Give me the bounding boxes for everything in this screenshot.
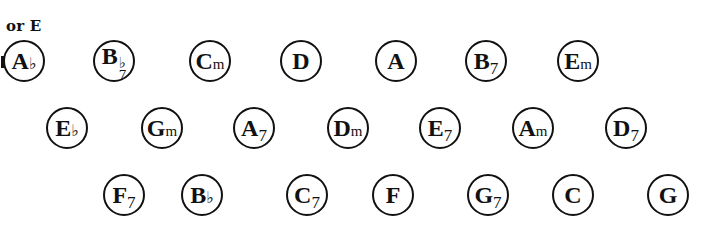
chord-root: A bbox=[387, 49, 404, 73]
chord-quality: ♭ bbox=[71, 123, 79, 139]
chord-root: C bbox=[195, 49, 212, 73]
chord-root: D bbox=[292, 49, 309, 73]
chord-g-7[interactable]: G7 bbox=[467, 174, 509, 216]
chord-root: G bbox=[474, 183, 493, 207]
chord-quality: m bbox=[351, 124, 363, 139]
chord-root: F bbox=[386, 183, 401, 207]
chord-root: E bbox=[564, 49, 580, 73]
chord-quality: 7 bbox=[311, 194, 320, 211]
chord-quality: m bbox=[213, 57, 225, 72]
chord-root: A bbox=[12, 49, 29, 73]
chord-root: D bbox=[613, 116, 630, 140]
chord-g[interactable]: G bbox=[647, 174, 689, 216]
chord-root: B bbox=[102, 44, 118, 68]
chord-quality: 7 bbox=[490, 60, 499, 77]
chord-root: G bbox=[659, 183, 678, 207]
chord-quality: m bbox=[580, 57, 592, 72]
chord-root: D bbox=[333, 116, 350, 140]
chord-g-minor[interactable]: Gm bbox=[141, 107, 183, 149]
chord-e-flat[interactable]: E♭ bbox=[46, 107, 88, 149]
chord-quality-bottom: 7 bbox=[119, 69, 127, 81]
note-or-e: or E bbox=[6, 17, 41, 35]
chord-root: E bbox=[428, 116, 444, 140]
chord-root: B bbox=[190, 183, 206, 207]
chord-quality: m bbox=[166, 124, 178, 139]
chord-quality: 7 bbox=[630, 127, 639, 144]
chord-c[interactable]: C bbox=[552, 174, 594, 216]
chord-quality: 7 bbox=[127, 194, 136, 211]
chord-root: E bbox=[55, 116, 71, 140]
chord-b-flat-7[interactable]: B ♭ 7 bbox=[93, 40, 135, 82]
chord-quality: 7 bbox=[444, 127, 453, 144]
chord-e-minor[interactable]: Em bbox=[557, 40, 599, 82]
chord-quality: m bbox=[536, 124, 548, 139]
chord-f[interactable]: F bbox=[372, 174, 414, 216]
chord-root: C bbox=[564, 183, 581, 207]
chord-root: B bbox=[474, 49, 490, 73]
chord-quality: 7 bbox=[258, 127, 267, 144]
chord-root: C bbox=[294, 183, 311, 207]
chord-f-7[interactable]: F7 bbox=[103, 174, 145, 216]
chord-root: A bbox=[241, 116, 258, 140]
chord-root: F bbox=[112, 183, 127, 207]
chord-c-minor[interactable]: Cm bbox=[189, 40, 231, 82]
chord-root: A bbox=[518, 116, 535, 140]
chord-b-flat[interactable]: B♭ bbox=[181, 174, 223, 216]
chord-quality: 7 bbox=[493, 194, 502, 211]
chord-root: G bbox=[147, 116, 166, 140]
chord-a-flat[interactable]: A♭ bbox=[3, 40, 45, 82]
chord-quality-stack: ♭ 7 bbox=[119, 57, 127, 81]
chord-e-7[interactable]: E7 bbox=[419, 107, 461, 149]
chord-quality: ♭ bbox=[206, 190, 214, 206]
chord-b-7[interactable]: B7 bbox=[465, 40, 507, 82]
chord-d-7[interactable]: D7 bbox=[605, 107, 647, 149]
chord-a-minor[interactable]: Am bbox=[512, 107, 554, 149]
chord-a[interactable]: A bbox=[375, 40, 417, 82]
chord-quality: ♭ bbox=[29, 56, 37, 72]
chord-d[interactable]: D bbox=[280, 40, 322, 82]
chord-d-minor[interactable]: Dm bbox=[327, 107, 369, 149]
chord-a-7[interactable]: A7 bbox=[233, 107, 275, 149]
chord-c-7[interactable]: C7 bbox=[286, 174, 328, 216]
